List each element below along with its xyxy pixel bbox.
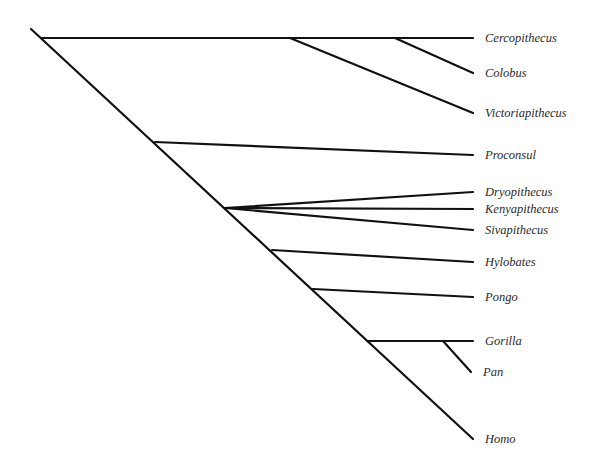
label-gorilla: Gorilla (485, 335, 522, 348)
label-kenyapithecus: Kenyapithecus (485, 203, 559, 216)
branch-kenyapithecus (225, 208, 473, 209)
branch-proconsul (155, 142, 473, 155)
label-proconsul: Proconsul (485, 149, 536, 162)
main-trunk (31, 29, 473, 439)
branch-pongo (313, 289, 473, 297)
label-pongo: Pongo (485, 291, 518, 304)
label-colobus: Colobus (485, 67, 527, 80)
label-dryopithecus: Dryopithecus (485, 186, 552, 199)
label-sivapithecus: Sivapithecus (485, 224, 548, 237)
branch-pan (443, 341, 471, 372)
label-victoriapithecus: Victoriapithecus (485, 107, 567, 120)
branch-victoriapithecus (290, 38, 473, 113)
branches (42, 38, 473, 372)
branch-dryopithecus (225, 192, 473, 208)
label-pan: Pan (483, 366, 503, 379)
label-hylobates: Hylobates (485, 256, 536, 269)
label-homo: Homo (485, 433, 516, 446)
label-cercopithecus: Cercopithecus (485, 32, 557, 45)
branch-sivapithecus (225, 208, 473, 230)
branch-colobus (395, 38, 473, 73)
branch-hylobates (272, 250, 473, 262)
